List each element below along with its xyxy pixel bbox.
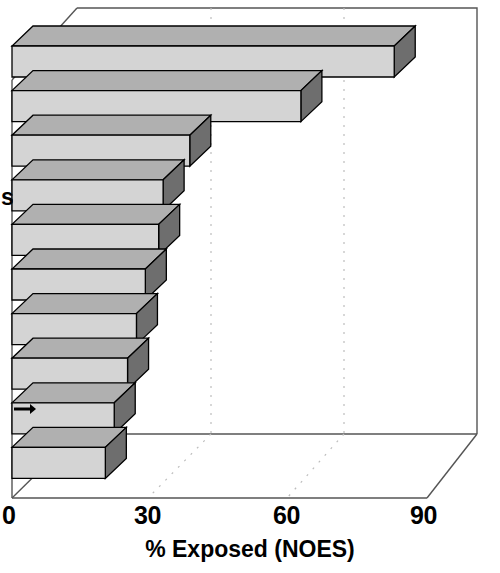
x-tick-label-60: 60 xyxy=(273,503,300,528)
x-tick-label-90: 90 xyxy=(410,503,437,528)
x-tick-label-0: 0 xyxy=(2,503,15,528)
bar xyxy=(12,26,415,77)
bar xyxy=(12,338,149,389)
y-axis-title: s xyxy=(1,186,13,209)
x-tick-label-30: 30 xyxy=(134,503,161,528)
bar xyxy=(12,427,126,478)
bar xyxy=(12,294,157,345)
floor-gridline-60 xyxy=(287,434,344,498)
chart-plot-area xyxy=(0,0,500,573)
bar xyxy=(12,160,184,211)
bar xyxy=(12,204,180,255)
bar-series xyxy=(12,26,415,478)
bar xyxy=(12,115,211,166)
bar-chart-3d: 0 30 60 90 % Exposed (NOES) s xyxy=(0,0,500,573)
floor-right-depth-edge xyxy=(427,434,477,498)
bar xyxy=(12,71,322,122)
x-axis-title: % Exposed (NOES) xyxy=(0,536,500,563)
bar xyxy=(12,249,166,300)
floor-gridline-30 xyxy=(148,434,211,498)
